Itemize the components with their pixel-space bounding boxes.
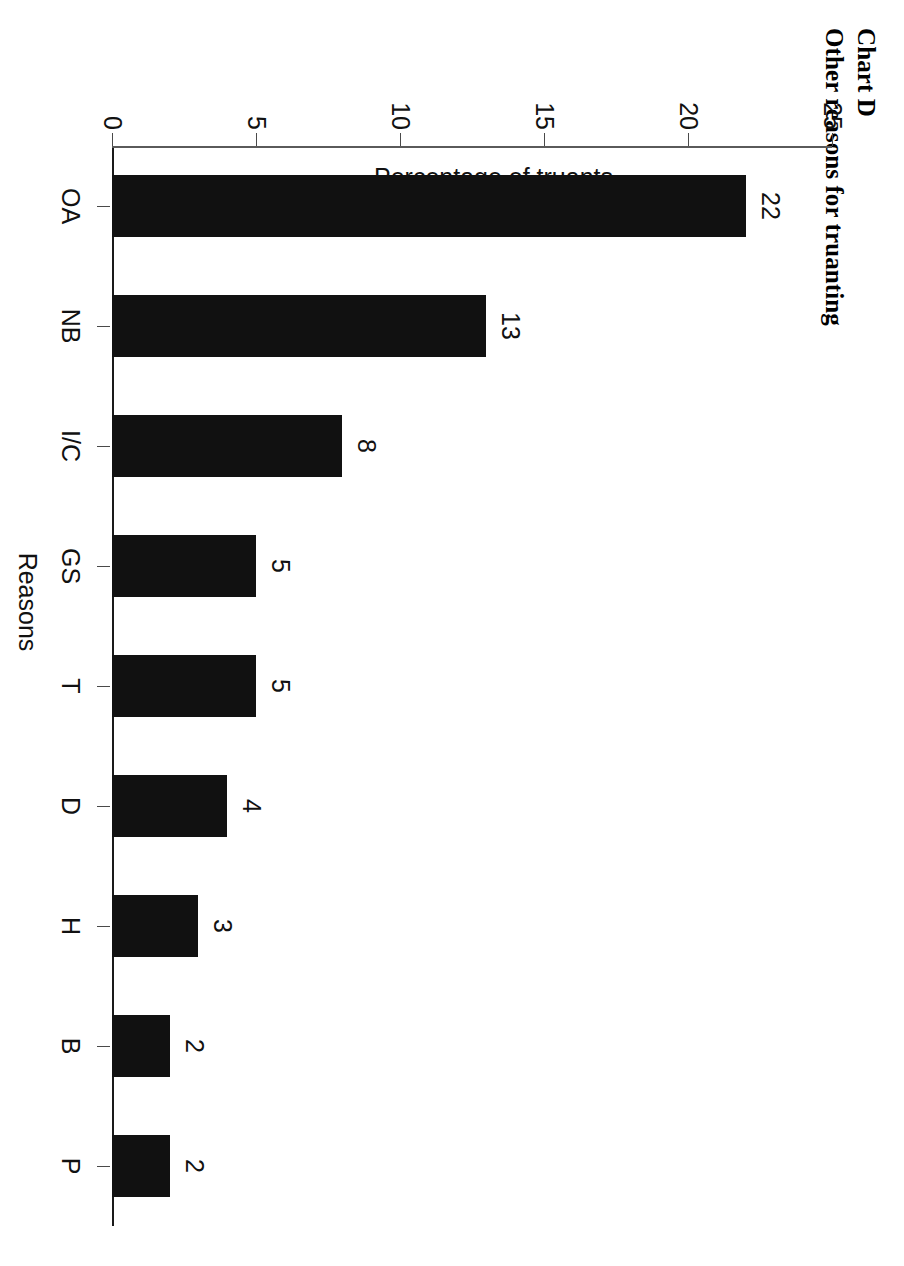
value-tick <box>400 133 401 146</box>
category-axis-title: Reasons <box>13 553 42 652</box>
category-tick <box>97 686 110 687</box>
bar-value-label: 22 <box>756 192 785 220</box>
bar <box>112 895 198 957</box>
category-tick <box>97 926 110 927</box>
category-tick <box>97 206 110 207</box>
plot-area: 0510152025 OANBI/CGSTDHBP 22138554322 <box>110 146 870 1226</box>
bar <box>112 1135 170 1197</box>
value-axis-title: Percentage of truants <box>374 163 613 192</box>
category-tick-label: OA <box>56 188 85 224</box>
category-tick <box>97 1046 110 1047</box>
bar-value-label: 4 <box>237 799 266 813</box>
category-tick-label: H <box>56 917 85 935</box>
category-tick-label: I/C <box>56 430 85 462</box>
value-tick <box>688 133 689 146</box>
value-tick <box>256 133 257 146</box>
bar <box>112 535 256 597</box>
category-tick <box>97 1166 110 1167</box>
bar <box>112 1015 170 1077</box>
bar <box>112 775 227 837</box>
value-tick <box>112 133 113 146</box>
value-tick <box>544 133 545 146</box>
value-tick <box>832 133 833 146</box>
value-tick-label: 20 <box>674 84 703 130</box>
bar <box>112 415 342 477</box>
value-tick-label: 25 <box>818 84 847 130</box>
category-tick <box>97 566 110 567</box>
value-tick-label: 15 <box>530 84 559 130</box>
value-tick-label: 5 <box>242 84 271 130</box>
category-tick-label: D <box>56 797 85 815</box>
bar <box>112 295 486 357</box>
bar-value-label: 5 <box>266 679 295 693</box>
bar-value-label: 2 <box>180 1039 209 1053</box>
category-tick-label: GS <box>56 548 85 584</box>
bar-value-label: 13 <box>496 312 525 340</box>
category-tick <box>97 806 110 807</box>
value-tick-label: 10 <box>386 84 415 130</box>
category-tick-label: P <box>56 1158 85 1175</box>
category-tick-label: NB <box>56 309 85 344</box>
bar-value-label: 5 <box>266 559 295 573</box>
bar <box>112 655 256 717</box>
chart-stage: Chart D Other reasons for truanting 0510… <box>0 0 904 1266</box>
category-tick <box>97 446 110 447</box>
value-tick-label: 0 <box>98 84 127 130</box>
category-tick-label: T <box>56 678 85 693</box>
bar-value-label: 2 <box>180 1159 209 1173</box>
value-axis-line <box>112 146 832 148</box>
category-tick-label: B <box>56 1038 85 1055</box>
bar-value-label: 8 <box>352 439 381 453</box>
bar-value-label: 3 <box>208 919 237 933</box>
category-tick <box>97 326 110 327</box>
